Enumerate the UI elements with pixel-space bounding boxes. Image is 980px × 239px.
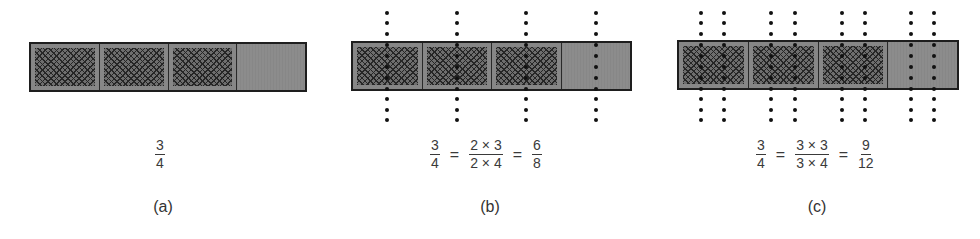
dot [769,65,773,69]
dot [699,11,703,15]
dot [863,87,867,91]
dot [840,108,844,112]
denominator: 12 [858,155,874,171]
dot [932,54,936,58]
dotted-divider [863,11,867,123]
dot [793,32,797,36]
dot [932,65,936,69]
dot [932,11,936,15]
dot [909,76,913,80]
dot [909,32,913,36]
dot [863,43,867,47]
dotted-divider [722,11,726,123]
dot [699,43,703,47]
numerator: 3 × 3 [795,138,829,155]
dot [932,97,936,101]
dot [840,11,844,15]
dot [863,54,867,58]
dot [699,32,703,36]
dot [840,87,844,91]
dot [722,76,726,80]
caption-c: (c) [808,198,827,216]
dot [863,21,867,25]
shaded-part [679,42,749,88]
dot [840,97,844,101]
dot [863,118,867,122]
dot [699,108,703,112]
crosshatch-fill [753,46,814,84]
dot [909,108,913,112]
dot [769,11,773,15]
dot [932,43,936,47]
dot [793,65,797,69]
fraction: 3 4 [756,138,766,171]
dot [722,54,726,58]
dot [932,32,936,36]
dot [840,65,844,69]
dotted-divider [769,11,773,123]
numerator: 3 [756,138,766,155]
equals-sign: = [776,146,785,164]
dot [769,76,773,80]
denominator: 4 [757,155,765,171]
dot [699,76,703,80]
dot [932,21,936,25]
dot [863,108,867,112]
dot [863,32,867,36]
crosshatch-fill [683,46,744,84]
dotted-divider [932,11,936,123]
dot [769,54,773,58]
dot [840,54,844,58]
dot [932,108,936,112]
dotted-divider [909,11,913,123]
dot [909,87,913,91]
dot [909,118,913,122]
dot [793,21,797,25]
dot [793,76,797,80]
fraction: 3 × 3 3 × 4 [795,138,829,171]
dot [840,21,844,25]
unshaded-part [888,42,957,88]
dot [769,43,773,47]
dotted-divider [699,11,703,123]
dot [932,87,936,91]
dot [909,97,913,101]
dot [722,11,726,15]
equals-sign: = [839,146,848,164]
dot [840,43,844,47]
equation-c: 3 4 = 3 × 3 3 × 4 = 9 12 [756,138,874,171]
dot [722,97,726,101]
shaded-part [749,42,819,88]
dot [793,54,797,58]
dot [863,97,867,101]
dot [769,32,773,36]
dot [722,32,726,36]
dot [769,108,773,112]
dot [793,11,797,15]
numerator: 9 [861,138,871,155]
panel-c: 3 4 = 3 × 3 3 × 4 = 9 12 (c) [0,0,980,239]
crosshatch-fill [823,46,884,84]
denominator: 3 × 4 [796,155,828,171]
dotted-divider [840,11,844,123]
dot [769,118,773,122]
dot [909,11,913,15]
dot [769,87,773,91]
fraction-bar-c [677,40,959,90]
dot [909,43,913,47]
dot [722,65,726,69]
dot [699,97,703,101]
dot [722,87,726,91]
dot [932,118,936,122]
dot [840,118,844,122]
dot [909,54,913,58]
dot [699,87,703,91]
dot [793,87,797,91]
dot [699,118,703,122]
dot [722,43,726,47]
dot [769,21,773,25]
dot [722,21,726,25]
dot [909,65,913,69]
dot [909,21,913,25]
dot [699,54,703,58]
